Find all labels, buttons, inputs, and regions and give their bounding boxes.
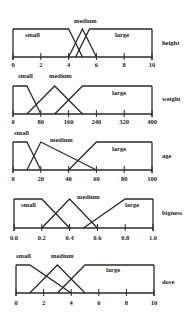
membership-large: [55, 86, 152, 114]
variable-label: age: [162, 152, 172, 159]
set-label-medium: medium: [74, 17, 97, 24]
tick-label: 0: [11, 175, 14, 182]
tick-label: 0.8: [121, 234, 130, 241]
tick-label: 0.0: [10, 234, 18, 241]
set-label-small: small: [25, 31, 40, 38]
tick-label: 400: [147, 118, 157, 125]
diagram-canvas: 0246810smallmediumlargeheight08016024032…: [0, 0, 189, 328]
panel-bigness: 0.00.20.40.60.81.0smallmediumlargebignes…: [10, 193, 183, 241]
tick-label: 4: [67, 61, 71, 68]
fuzzy-membership-diagram: 0246810smallmediumlargeheight08016024032…: [0, 0, 189, 328]
tick-label: 1.0: [149, 234, 157, 241]
tick-label: 2: [42, 299, 45, 306]
membership-large: [69, 142, 152, 170]
membership-medium: [27, 142, 97, 170]
variable-label: weight: [162, 95, 181, 102]
variable-label: dose: [162, 278, 174, 285]
membership-small: [13, 86, 41, 114]
tick-label: 6: [97, 299, 101, 306]
set-label-medium: medium: [49, 72, 72, 79]
membership-small: [13, 142, 41, 170]
tick-label: 20: [38, 175, 45, 182]
set-label-large: large: [106, 266, 120, 273]
variable-label: bigness: [162, 209, 183, 216]
tick-label: 240: [92, 118, 102, 125]
set-label-medium: medium: [77, 193, 100, 200]
panel-dose: 0246810smallmediumlargedose: [14, 252, 174, 306]
tick-label: 100: [147, 175, 157, 182]
tick-label: 80: [38, 118, 45, 125]
set-label-small: small: [16, 252, 31, 259]
tick-label: 0.4: [66, 234, 75, 241]
membership-small: [13, 29, 83, 57]
tick-label: 80: [121, 175, 128, 182]
membership-medium: [27, 86, 83, 114]
tick-label: 4: [70, 299, 74, 306]
tick-label: 8: [125, 299, 129, 306]
set-label-large: large: [112, 89, 126, 96]
tick-label: 60: [93, 175, 100, 182]
membership-medium: [30, 265, 85, 293]
tick-label: 8: [123, 61, 127, 68]
tick-label: 6: [95, 61, 99, 68]
set-label-small: small: [21, 201, 36, 208]
tick-label: 0.2: [38, 234, 46, 241]
tick-label: 10: [149, 61, 156, 68]
set-label-large: large: [115, 31, 129, 38]
variable-label: height: [162, 39, 180, 46]
tick-label: 320: [119, 118, 129, 125]
tick-label: 0: [11, 118, 14, 125]
set-label-small: small: [14, 129, 29, 136]
panel-height: 0246810smallmediumlargeheight: [11, 17, 180, 68]
tick-label: 0: [11, 61, 14, 68]
set-label-large: large: [125, 201, 139, 208]
set-label-medium: medium: [51, 252, 74, 259]
tick-label: 0: [14, 299, 17, 306]
set-label-medium: medium: [50, 136, 73, 143]
set-label-small: small: [18, 72, 33, 79]
tick-label: 2: [39, 61, 42, 68]
panel-age: 020406080100smallmediumlargeage: [11, 129, 171, 182]
tick-label: 10: [151, 299, 158, 306]
tick-label: 0.6: [93, 234, 102, 241]
tick-label: 40: [65, 175, 72, 182]
membership-large: [76, 29, 152, 57]
set-label-large: large: [112, 145, 126, 152]
panel-weight: 080160240320400smallmediumlargeweight: [11, 72, 181, 125]
tick-label: 160: [64, 118, 74, 125]
